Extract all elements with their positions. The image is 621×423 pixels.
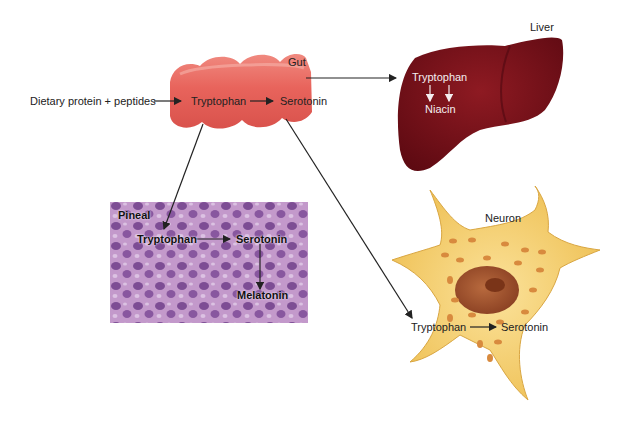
pineal-tryptophan-label: Tryptophan bbox=[137, 234, 197, 245]
neuron-tryptophan-label: Tryptophan bbox=[411, 322, 466, 333]
pineal-serotonin-label: Serotonin bbox=[236, 234, 287, 245]
gut-tryptophan-label: Tryptophan bbox=[191, 96, 246, 107]
liver-title: Liver bbox=[530, 22, 554, 33]
liver-illustration bbox=[398, 38, 563, 171]
liver-tryptophan-label: Tryptophan bbox=[412, 72, 467, 83]
pineal-melatonin-label: Melatonin bbox=[237, 290, 288, 301]
gut-title: Gut bbox=[288, 57, 306, 68]
liver-niacin-label: Niacin bbox=[425, 104, 456, 115]
diagram-canvas bbox=[0, 0, 621, 423]
neuron-title: Neuron bbox=[485, 213, 521, 224]
neuron-serotonin-label: Serotonin bbox=[501, 322, 548, 333]
gut-serotonin-label: Serotonin bbox=[280, 96, 327, 107]
pineal-title: Pineal bbox=[118, 210, 150, 221]
dietary-input-label: Dietary protein + peptides bbox=[30, 96, 156, 107]
